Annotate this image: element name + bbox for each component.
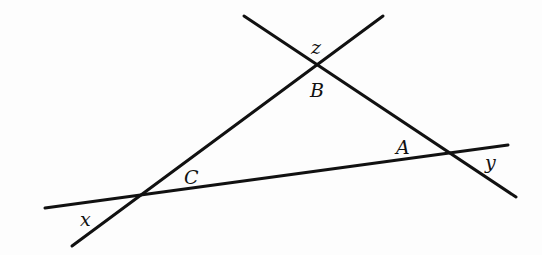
line-through-c-a [45,145,508,208]
label-exterior-angle-y: y [484,151,496,173]
label-vertex-b: B [309,79,324,101]
label-exterior-angle-z: z [310,36,322,58]
triangle-diagram: A B C x y z [0,0,542,255]
line-through-c-b [72,16,383,246]
label-vertex-c: C [184,166,199,188]
label-exterior-angle-x: x [80,208,91,230]
line-through-b-a [244,16,516,197]
label-vertex-a: A [394,136,410,158]
